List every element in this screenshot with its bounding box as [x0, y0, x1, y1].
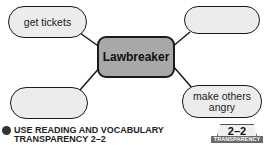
- node-bottom-right: make others angry: [182, 85, 262, 118]
- node-bottom-left: [10, 87, 88, 119]
- center-node-label: Lawbreaker: [103, 50, 170, 64]
- badge-label: TRANSPARENCY: [211, 136, 263, 143]
- transparency-instruction: USE READING AND VOCABULARY TRANSPARENCY …: [14, 126, 164, 144]
- node-top-right: [184, 6, 260, 34]
- bullet-icon: [2, 126, 11, 135]
- instruction-line-2: TRANSPARENCY 2–2: [14, 135, 164, 144]
- node-top-left: get tickets: [8, 6, 87, 38]
- center-node: Lawbreaker: [97, 36, 175, 78]
- node-top-left-label: get tickets: [24, 17, 71, 28]
- badge-number: 2–2: [217, 124, 257, 136]
- concept-web-diagram: get tickets Lawbreaker make others angry…: [0, 0, 270, 145]
- node-bottom-right-label: make others angry: [189, 91, 255, 113]
- transparency-badge: 2–2 TRANSPARENCY: [211, 124, 263, 144]
- connector-bottom-right: [173, 66, 192, 88]
